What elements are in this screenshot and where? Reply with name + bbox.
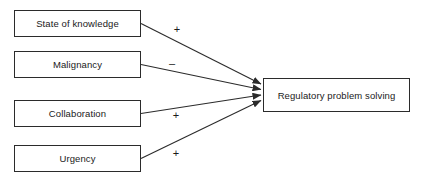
- sign-state-of-knowledge: +: [170, 24, 184, 35]
- arrow-malignancy-to-outcome: [141, 65, 261, 90]
- arrow-state-of-knowledge-to-outcome: [141, 24, 261, 85]
- sign-collaboration: +: [169, 110, 183, 121]
- node-label-collaboration: Collaboration: [49, 108, 106, 119]
- node-urgency[interactable]: Urgency: [14, 145, 141, 172]
- sign-malignancy: –: [165, 58, 179, 69]
- node-label-malignancy: Malignancy: [53, 59, 102, 70]
- node-collaboration[interactable]: Collaboration: [14, 100, 141, 127]
- node-label-urgency: Urgency: [59, 153, 95, 164]
- node-regulatory-problem-solving[interactable]: Regulatory problem solving: [263, 78, 410, 112]
- arrow-urgency-to-outcome: [141, 101, 261, 159]
- node-label-state-of-knowledge: State of knowledge: [36, 18, 119, 29]
- node-malignancy[interactable]: Malignancy: [14, 51, 141, 78]
- diagram-canvas: State of knowledge Malignancy Collaborat…: [0, 0, 421, 188]
- arrow-collaboration-to-outcome: [141, 95, 261, 114]
- sign-urgency: +: [169, 148, 183, 159]
- node-label-regulatory-problem-solving: Regulatory problem solving: [278, 90, 396, 101]
- node-state-of-knowledge[interactable]: State of knowledge: [14, 10, 141, 37]
